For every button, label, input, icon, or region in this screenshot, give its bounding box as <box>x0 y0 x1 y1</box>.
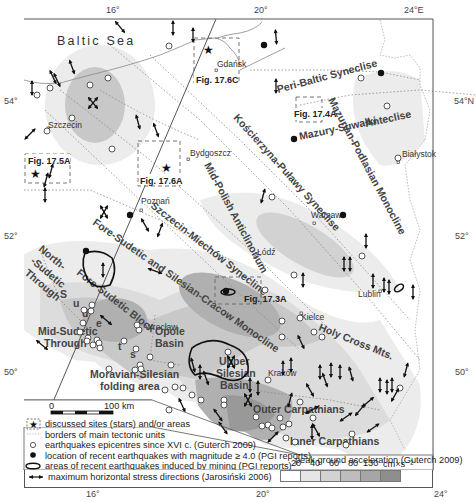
coord-bottom-16: 16° <box>86 489 100 499</box>
legend-item-stress: maximum horizontal stress directions (Ja… <box>48 472 272 482</box>
coord-right-52: 52° <box>455 231 469 241</box>
scale-end: 100 km <box>104 401 134 411</box>
unit-opole-2: Basin <box>155 337 184 349</box>
pga-swatch-1 <box>301 470 321 482</box>
fig-label-17-5a[interactable]: Fig. 17.5A <box>28 156 71 166</box>
filled-circle-icon <box>30 452 36 458</box>
svg-text:★: ★ <box>30 167 41 181</box>
unit-sudets-u: u <box>73 297 79 309</box>
pga-tick-60: 60 <box>329 458 339 468</box>
pga-unit: cm×s⁻² <box>383 458 413 469</box>
svg-text:★: ★ <box>161 161 172 175</box>
city-bialystok: Białystok <box>402 149 437 159</box>
coord-top-16: 16° <box>106 5 120 15</box>
coord-bottom-20: 20° <box>256 489 270 499</box>
coord-right-50: 50° <box>455 367 469 377</box>
vistula-lagoon <box>240 48 285 70</box>
legend-item-epicentres: earthquakes epicentres since XVI c. (Gut… <box>45 440 256 450</box>
fig-label-17-4a[interactable]: Fig. 17.4A <box>294 109 337 119</box>
legend-item-stress-row: maximum horizontal stress directions (Ja… <box>28 472 272 482</box>
seismic-map: 16° 20° 24°E 16° 20° 24° 54° 52° 50° 54°… <box>0 0 476 502</box>
coord-left-54: 54° <box>4 96 18 106</box>
coord-left-52: 52° <box>4 231 18 241</box>
unit-opole-1: Opole <box>155 325 185 337</box>
coord-bottom-24: 24° <box>434 489 448 499</box>
city-bydgoszcz: Bydgoszcz <box>190 148 231 158</box>
coord-left-50: 50° <box>4 367 18 377</box>
coord-top-20: 20° <box>254 5 268 15</box>
pga-swatch-0 <box>280 470 301 482</box>
legend-item-borders: borders of main tectonic units <box>45 430 165 440</box>
coord-top-24: 24°E <box>404 5 424 15</box>
star-box-icon: ★ <box>29 419 38 430</box>
city-gdansk: Gdańsk <box>217 59 247 69</box>
hel-peninsula <box>218 22 262 38</box>
sea-label: Baltic Sea <box>57 34 135 48</box>
city-lublin: Lublin <box>358 289 381 299</box>
legend-item-sites: discussed sites (stars) and/or areas <box>45 419 190 429</box>
scale-start: 0 <box>49 401 54 411</box>
pga-tick-130: 130 <box>363 458 378 468</box>
city-szczecin: Szczecin <box>48 120 82 130</box>
pga-swatches <box>280 470 401 482</box>
pga-tick-40: 40 <box>310 458 320 468</box>
pga-ticks: 20 40 60 80 130 cm×s⁻² <box>291 458 451 469</box>
pga-tick-80: 80 <box>348 458 358 468</box>
stress-arrow-icon <box>28 473 44 481</box>
pga-swatch-2 <box>321 470 341 482</box>
pga-swatch-4 <box>361 470 381 482</box>
pga-swatch-3 <box>341 470 361 482</box>
fig-label-17-3a[interactable]: Fig. 17.3A <box>244 294 287 304</box>
unit-mid-sudetic-2: Through <box>44 337 87 349</box>
svg-text:★: ★ <box>203 43 214 57</box>
pga-swatch-5 <box>381 470 401 482</box>
open-circle-icon <box>30 442 35 447</box>
pga-tick-20: 20 <box>291 458 301 468</box>
coord-right-54: 54°N <box>454 96 474 106</box>
unit-moravian-2: folding area <box>100 380 160 392</box>
legend-item-recent: location of recent earthquakes with magn… <box>45 451 311 461</box>
unit-sudets-s: S <box>60 288 67 300</box>
fig-label-17-6a[interactable]: Fig. 17.6A <box>140 176 183 186</box>
unit-inner-carpathians: Inner Carpathians <box>290 435 379 447</box>
fig-label-17-6c[interactable]: Fig. 17.6C <box>196 75 239 85</box>
